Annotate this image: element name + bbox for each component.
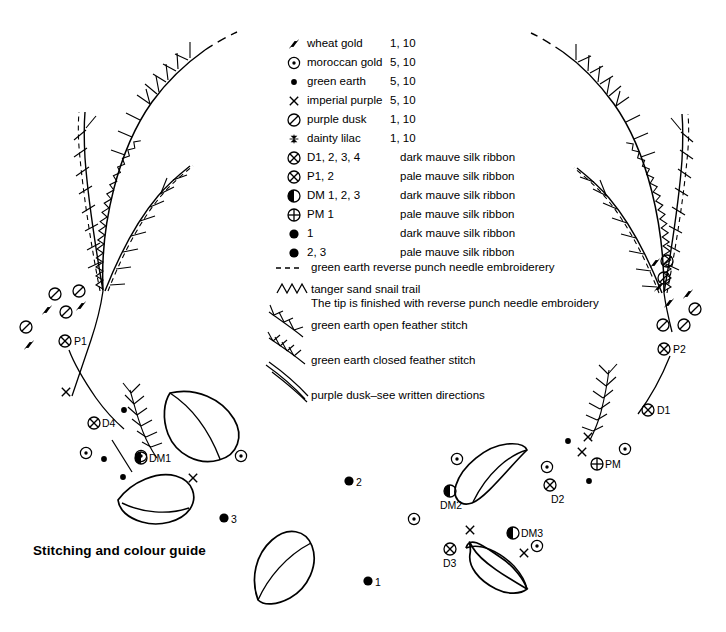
stitch-row-label-0: green earth reverse punch needle embroid… bbox=[311, 261, 555, 273]
stitch-row-label-4: green earth closed feather stitch bbox=[311, 354, 475, 366]
right-scatter-symbols bbox=[565, 255, 701, 484]
circle-x-icon-p bbox=[288, 171, 300, 183]
legend-desc-11: pale mauve silk ribbon bbox=[400, 246, 514, 258]
marker-label-d3: D3 bbox=[443, 557, 456, 569]
marker-label-d1: D1 bbox=[657, 404, 670, 416]
legend-name-0: wheat gold bbox=[307, 37, 363, 49]
legend-name-9: PM 1 bbox=[307, 208, 334, 220]
circle-x-icon-d bbox=[288, 152, 300, 164]
leaf-lower-right bbox=[466, 542, 527, 593]
top-right-spray bbox=[531, 33, 693, 293]
open-feather-stitch-icon bbox=[269, 305, 303, 337]
leaf-upper-left bbox=[164, 391, 238, 461]
dainty-lilac-icon bbox=[290, 135, 299, 144]
legend-stitch-samples bbox=[266, 268, 308, 402]
circle-plus-icon bbox=[288, 209, 300, 221]
stitch-row-label-1: tanger sand snail trail bbox=[311, 283, 420, 295]
circle-half-icon bbox=[288, 190, 300, 202]
legend-desc-10: dark mauve silk ribbon bbox=[400, 227, 515, 239]
legend-name-1: moroccan gold bbox=[307, 56, 382, 68]
legend-name-3: imperial purple bbox=[307, 94, 382, 106]
marker-label-3: 3 bbox=[231, 513, 237, 525]
top-left-spray bbox=[74, 32, 237, 291]
legend-value-5: 1, 10 bbox=[390, 132, 416, 144]
marker-label-1: 1 bbox=[375, 576, 381, 588]
marker-label-p2: P2 bbox=[673, 343, 686, 355]
marker-label-2: 2 bbox=[356, 476, 362, 488]
zigzag-icon bbox=[277, 284, 307, 293]
legend-name-8: DM 1, 2, 3 bbox=[307, 189, 360, 201]
legend-desc-9: pale mauve silk ribbon bbox=[400, 208, 514, 220]
imperial-purple-icon bbox=[290, 97, 298, 105]
curved-lines-icon bbox=[266, 362, 308, 402]
left-feather-sprig bbox=[123, 383, 162, 458]
stitch-row-label-3: green earth open feather stitch bbox=[311, 319, 468, 331]
stitch-row-label-5: purple dusk–see written directions bbox=[311, 389, 485, 401]
legend-value-4: 1, 10 bbox=[390, 113, 416, 125]
stitching-guide-canvas: wheat gold moroccan gold green earth imp… bbox=[0, 0, 726, 632]
legend-desc-7: pale mauve silk ribbon bbox=[400, 170, 514, 182]
marker-label-d4: D4 bbox=[102, 417, 115, 429]
page-title: Stitching and colour guide bbox=[33, 543, 206, 558]
legend-name-11: 2, 3 bbox=[307, 246, 326, 258]
wheat-gold-icon bbox=[289, 40, 298, 48]
moroccan-gold-icon bbox=[288, 57, 299, 68]
stitch-row-label-2: The tip is finished with reverse punch n… bbox=[311, 297, 599, 309]
marker-label-dm1: DM1 bbox=[149, 452, 171, 464]
purple-dusk-icon bbox=[288, 114, 300, 126]
marker-label-dm2: DM2 bbox=[440, 499, 462, 511]
leaf-upper-right bbox=[455, 444, 527, 504]
legend-name-4: purple dusk bbox=[307, 113, 366, 125]
legend-symbol-column bbox=[288, 40, 300, 258]
legend-name-2: green earth bbox=[307, 75, 366, 87]
filled-dot-icon-23 bbox=[289, 248, 298, 257]
closed-feather-stitch-icon bbox=[268, 332, 305, 364]
stray-dash-left bbox=[112, 440, 132, 472]
green-earth-icon bbox=[291, 79, 297, 85]
legend-name-7: P1, 2 bbox=[307, 170, 334, 182]
leaf-center-bottom bbox=[254, 531, 314, 603]
legend-name-5: dainty lilac bbox=[307, 132, 361, 144]
legend-value-0: 1, 10 bbox=[390, 37, 416, 49]
legend-desc-8: dark mauve silk ribbon bbox=[400, 189, 515, 201]
legend-value-1: 5, 10 bbox=[390, 56, 416, 68]
filled-dot-icon-1 bbox=[289, 229, 298, 238]
legend-name-6: D1, 2, 3, 4 bbox=[307, 151, 360, 163]
marker-label-p1: P1 bbox=[74, 335, 87, 347]
legend-value-2: 5, 10 bbox=[390, 75, 416, 87]
legend-value-3: 5, 10 bbox=[390, 94, 416, 106]
legend-name-10: 1 bbox=[307, 227, 313, 239]
marker-label-pm: PM bbox=[605, 458, 621, 470]
marker-label-dm3: DM3 bbox=[521, 527, 543, 539]
leaf-lower-left bbox=[118, 475, 194, 524]
marker-label-d2: D2 bbox=[551, 493, 564, 505]
right-feather-sprig bbox=[582, 364, 617, 440]
legend-desc-6: dark mauve silk ribbon bbox=[400, 151, 515, 163]
